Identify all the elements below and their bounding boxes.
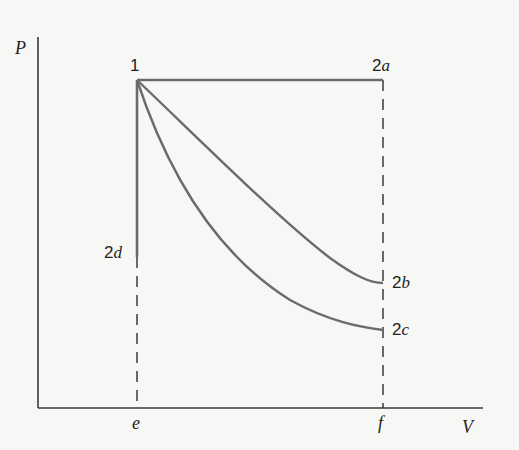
- x-tick-e: e: [132, 414, 140, 432]
- point-label-2a: 2a: [372, 57, 390, 74]
- point-label-2c: 2c: [392, 321, 409, 338]
- point-label-2d: 2d: [104, 244, 122, 261]
- x-axis-label: V: [462, 418, 473, 436]
- y-axis-label: P: [15, 39, 26, 57]
- path-1-2c: [137, 80, 383, 330]
- path-1-2b: [137, 80, 383, 283]
- pv-diagram: [0, 0, 519, 450]
- point-label-2b: 2b: [392, 274, 410, 291]
- x-tick-f: f: [378, 414, 383, 432]
- point-label-1: 1: [130, 57, 139, 74]
